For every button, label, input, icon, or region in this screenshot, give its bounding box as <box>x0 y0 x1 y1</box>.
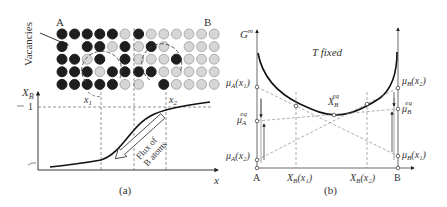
atom-a <box>57 54 67 64</box>
atom-b <box>120 79 130 89</box>
atom-b <box>197 42 207 52</box>
atom-grid <box>57 29 219 89</box>
atom-b <box>134 42 144 52</box>
atom-b <box>184 42 194 52</box>
xb-x1-tick: XB(x₁) <box>286 172 313 185</box>
atom-a <box>95 29 105 39</box>
xb-eq-label: XBeq <box>327 92 339 109</box>
atom-a <box>159 79 169 89</box>
atom-b <box>171 79 181 89</box>
t-fixed-label: T fixed <box>312 46 343 58</box>
diffusion-diagram: Vacancies A B x1 x2 XB x 1 <box>0 0 447 207</box>
atom-b <box>159 67 169 77</box>
label-B: B <box>204 16 211 28</box>
atom-a <box>57 29 67 39</box>
atom-a <box>120 42 130 52</box>
atom-b <box>134 79 144 89</box>
atom-b <box>184 54 194 64</box>
atom-b <box>146 54 156 64</box>
atom-b <box>95 67 105 77</box>
atom-b <box>197 29 207 39</box>
atom-a <box>82 29 92 39</box>
x2-label: x2 <box>168 94 177 107</box>
atom-b <box>209 67 219 77</box>
mu-a-eq-label: μAeq <box>236 110 247 127</box>
caption-a: (a) <box>119 184 132 197</box>
atom-b <box>209 79 219 89</box>
atom-b <box>159 42 169 52</box>
atom-b <box>184 79 194 89</box>
label-A: A <box>56 16 64 28</box>
atom-a <box>57 42 67 52</box>
atom-b <box>171 67 181 77</box>
panel-b: Gm T fixed μA(x₁) <box>225 27 427 197</box>
atom-a <box>107 79 117 89</box>
x1-label: x1 <box>83 94 92 107</box>
mu-b-x1-label: μB(x₁) <box>401 149 427 162</box>
g-axis-label: Gm <box>240 27 253 40</box>
atom-a <box>70 29 80 39</box>
atom-b <box>184 67 194 77</box>
atom-a <box>146 67 156 77</box>
atom-b <box>209 54 219 64</box>
vacancies-label: Vacancies <box>22 22 34 66</box>
atom-b <box>209 29 219 39</box>
atom-b <box>184 29 194 39</box>
atom-b <box>197 67 207 77</box>
atom-a <box>134 29 144 39</box>
common-tangent-eq <box>257 109 398 121</box>
atom-b <box>209 42 219 52</box>
atom-b <box>159 29 169 39</box>
atom-a <box>95 42 105 52</box>
atom-b <box>120 29 130 39</box>
atom-b <box>171 29 181 39</box>
atom-b <box>197 79 207 89</box>
tick-one: 1 <box>28 101 33 112</box>
caption-b: (b) <box>324 184 337 197</box>
atom-a <box>107 29 117 39</box>
atom-b <box>107 42 117 52</box>
mu-a-x2-label: μA(x₂) <box>225 150 251 163</box>
atom-a <box>95 54 105 64</box>
x-label-A: A <box>253 172 261 183</box>
atom-a <box>82 79 92 89</box>
panel-a: Vacancies A B x1 x2 XB x 1 <box>17 16 219 197</box>
atom-a <box>70 79 80 89</box>
atom-a <box>107 67 117 77</box>
atom-a <box>70 67 80 77</box>
xb-x2-tick: XB(x₂) <box>349 172 376 185</box>
atom-b <box>159 54 169 64</box>
atom-a <box>82 42 92 52</box>
xb-axis-label: XB <box>21 86 34 101</box>
atom-a <box>95 79 105 89</box>
x-axis-label: x <box>213 174 219 186</box>
atom-a <box>70 54 80 64</box>
atom-b <box>197 54 207 64</box>
atom-a <box>57 79 67 89</box>
atom-a <box>120 54 130 64</box>
atom-b <box>146 29 156 39</box>
mu-b-eq-label: μBeq <box>401 99 412 116</box>
mu-b-x2-label: μB(x₂) <box>401 75 427 88</box>
x-label-B: B <box>394 172 401 183</box>
concentration-profile <box>50 102 210 167</box>
atom-a <box>82 67 92 77</box>
atom-a <box>57 67 67 77</box>
mu-a-x1-label: μA(x₁) <box>225 77 251 90</box>
